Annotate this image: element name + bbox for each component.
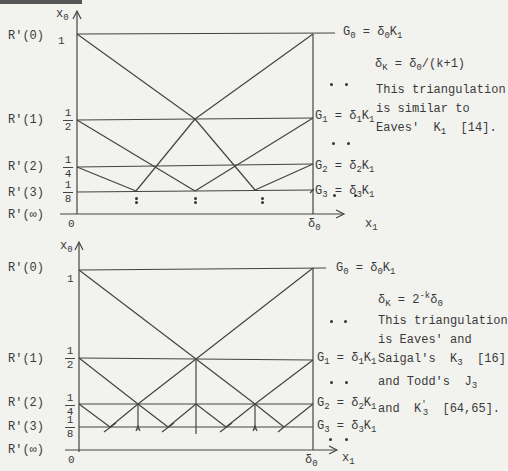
row-label-r2: R'(2): [8, 397, 44, 409]
ellipsis-dot: [347, 142, 350, 145]
row-label-r3: R'(3): [8, 187, 44, 199]
top-note: This triangulation is similar to Eaves' …: [376, 81, 506, 142]
delta0-label: δ0: [305, 454, 318, 469]
tick-label-1: 1: [67, 274, 74, 285]
level-label-g0: G0 = δ0K1: [336, 262, 395, 277]
delta-k-formula: δK = δ0/(k+1): [375, 58, 465, 73]
level-label-g1: G1 = δ1K1: [315, 110, 374, 125]
row-label-r2: R'(2): [8, 161, 44, 173]
row-label-r0: R'(0): [8, 262, 44, 274]
ellipsis-dot: [194, 201, 197, 204]
tick-label-eighth: 18: [63, 180, 73, 205]
bottom-note: This triangulation is Eaves' and Saigal'…: [378, 312, 508, 423]
ellipsis-dot: [330, 83, 333, 86]
ellipsis-dot: [344, 320, 347, 323]
ellipsis-dot: [354, 194, 357, 197]
ellipsis-dot: [330, 320, 333, 323]
y-axis-label: x0: [56, 8, 69, 23]
ellipsis-dot: [329, 438, 332, 441]
level-label-g3: G3 = δ3K1: [315, 185, 374, 200]
row-label-rinf: R'(∞): [8, 444, 44, 456]
ellipsis-dot: [332, 142, 335, 145]
row-label-r1: R'(1): [8, 114, 44, 126]
row-label-r1: R'(1): [8, 353, 44, 365]
level-label-g0: G0 = δ0K1: [343, 26, 402, 41]
tick-label-half: 12: [65, 346, 75, 371]
ellipsis-dot: [261, 201, 264, 204]
delta-k-formula: δK = 2-kδ0: [378, 292, 443, 309]
ellipsis-dot: [345, 381, 348, 384]
ellipsis-dot: [135, 201, 138, 204]
ellipsis-dot: [345, 438, 348, 441]
origin-label: 0: [68, 455, 75, 466]
top-figure-lines: [60, 11, 344, 218]
ellipsis-dot: [261, 197, 264, 200]
row-label-r0: R'(0): [8, 30, 44, 42]
y-axis-label: x0: [60, 240, 73, 255]
tick-label-half: 12: [63, 108, 73, 133]
ellipsis-dot: [330, 381, 333, 384]
tick-label-quarter: 14: [63, 155, 73, 180]
ellipsis-dot: [333, 194, 336, 197]
tick-label-eighth: 18: [65, 415, 75, 440]
x-axis-label: x1: [342, 452, 355, 467]
row-label-r3: R'(3): [8, 421, 44, 433]
ellipsis-dot: [135, 197, 138, 200]
x-axis-label: x1: [365, 218, 378, 233]
tick-label-1: 1: [58, 36, 65, 47]
level-label-g1: G1 = δ1K1: [317, 352, 376, 367]
bottom-figure-lines: [65, 242, 337, 454]
ellipsis-dot: [194, 197, 197, 200]
level-label-g2: G2 = δ2K1: [317, 397, 376, 412]
ellipsis-dot: [345, 83, 348, 86]
row-label-rinf: R'(∞): [8, 209, 44, 221]
level-label-g2: G2 = δ2K1: [315, 160, 374, 175]
level-label-g3: G3 = δ3K1: [317, 420, 376, 435]
delta0-label: δ0: [308, 218, 321, 233]
origin-label: 0: [68, 219, 75, 230]
